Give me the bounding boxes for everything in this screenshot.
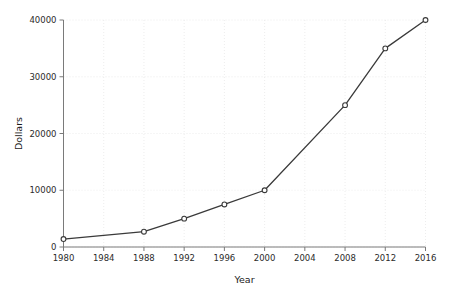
x-tick-label-1980: 1980	[53, 253, 75, 263]
y-tick-label-10000: 10000	[29, 185, 56, 195]
y-tick-label-20000: 20000	[29, 129, 56, 139]
y-tick-label-30000: 30000	[29, 72, 56, 82]
x-tick-label-1984: 1984	[93, 253, 115, 263]
data-point-2008-25000	[343, 103, 348, 108]
data-point-1992-5000	[182, 216, 187, 221]
data-point-2016-40000	[423, 18, 428, 23]
data-point-1988-2700	[142, 229, 147, 234]
x-tick-label-2004: 2004	[294, 253, 316, 263]
x-tick-label-2012: 2012	[374, 253, 396, 263]
y-tick-label-0: 0	[51, 242, 56, 252]
data-point-2012-35000	[383, 46, 388, 51]
y-tick-label-40000: 40000	[29, 15, 56, 25]
line-chart: 1980198419881992199620002004200820122016…	[0, 0, 449, 297]
x-tick-label-2000: 2000	[254, 253, 276, 263]
data-point-2000-10000	[262, 188, 267, 193]
x-tick-label-2016: 2016	[415, 253, 437, 263]
chart-figure: 1980198419881992199620002004200820122016…	[0, 0, 449, 297]
data-point-1996-7500	[222, 202, 227, 207]
data-point-1980-1400	[61, 237, 66, 242]
x-tick-label-1996: 1996	[214, 253, 236, 263]
x-tick-label-2008: 2008	[334, 253, 356, 263]
y-axis-title: Dollars	[13, 117, 24, 150]
x-axis-title: Year	[233, 274, 254, 285]
x-tick-label-1988: 1988	[133, 253, 155, 263]
x-tick-label-1992: 1992	[173, 253, 195, 263]
